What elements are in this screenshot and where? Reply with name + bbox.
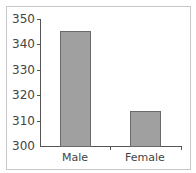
y-tick-label: 300: [8, 140, 35, 152]
y-axis: [40, 19, 41, 147]
y-tick: [37, 95, 41, 96]
y-tick-label: 310: [8, 115, 35, 127]
y-tick: [37, 70, 41, 71]
bar-male: [60, 31, 91, 147]
x-tick: [181, 146, 182, 150]
y-tick-label: 350: [8, 13, 35, 25]
y-tick-label: 330: [8, 64, 35, 76]
y-tick: [37, 19, 41, 20]
y-tick-label: 320: [8, 89, 35, 101]
y-tick-label: 340: [8, 38, 35, 50]
x-tick: [110, 146, 111, 150]
bar-female: [130, 111, 161, 147]
x-label-female: Female: [115, 151, 175, 164]
y-tick: [37, 121, 41, 122]
y-tick: [37, 44, 41, 45]
x-label-male: Male: [45, 151, 105, 164]
